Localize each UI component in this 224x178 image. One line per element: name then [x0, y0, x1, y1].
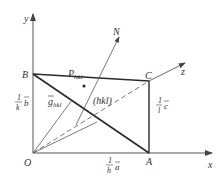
normal-N: [76, 37, 119, 125]
origin-label: O: [24, 157, 31, 168]
normal-label: N: [112, 26, 121, 37]
edge-BC: [33, 74, 149, 81]
edge-BA: [33, 74, 149, 153]
z-axis-segment: [149, 63, 185, 81]
plane-point-label: Phkl: [67, 68, 83, 81]
a-intercept-num: 1: [108, 156, 112, 165]
b-intercept-vec: b: [24, 98, 29, 108]
a-intercept-den: h: [107, 166, 111, 175]
line-O-plane: [33, 122, 97, 153]
c-intercept-den: l: [158, 106, 161, 115]
plane-label: (hkl): [93, 95, 113, 107]
a-intercept-vec: a: [115, 162, 120, 172]
y-axis-label: y: [23, 13, 29, 24]
point-A-label: A: [145, 156, 153, 167]
g-hkl-label: ghkl: [48, 96, 62, 109]
z-axis-label: z: [180, 66, 185, 77]
b-intercept-num: 1: [17, 93, 21, 102]
x-axis-label: x: [207, 159, 213, 170]
point-B-label: B: [22, 69, 28, 80]
c-intercept-vec: c: [164, 101, 168, 111]
c-intercept-num: 1: [158, 96, 162, 105]
plane-point: [83, 85, 86, 88]
dashed-OC: [33, 81, 149, 153]
b-intercept-den: k: [16, 103, 20, 112]
point-C-label: C: [145, 70, 152, 81]
reciprocal-lattice-diagram: y x z N B C A O Phkl (hkl) ghkl 1 k b 1 …: [0, 0, 224, 178]
